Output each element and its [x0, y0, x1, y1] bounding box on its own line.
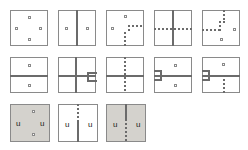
- dashed-vertical-segment: [124, 32, 126, 46]
- cell-row2-col2: [58, 57, 96, 93]
- cell-row1-col3: [106, 10, 144, 46]
- dashed-horizontal-segment: [128, 25, 144, 27]
- cell-row1-col1: [10, 10, 48, 46]
- node-marker: [233, 28, 236, 31]
- node-marker: [32, 133, 35, 136]
- bracket-tab-right: [87, 72, 97, 82]
- solid-vertical-segment: [77, 120, 79, 142]
- node-marker: [65, 27, 68, 30]
- u-label-left: u: [65, 121, 69, 129]
- cell-row2-col3: [106, 57, 144, 93]
- u-label-left: u: [16, 120, 20, 128]
- dashed-vertical-segment: [125, 123, 127, 142]
- u-label-right: u: [88, 121, 92, 129]
- dashed-horizontal-segment: [219, 21, 225, 23]
- node-marker: [174, 84, 177, 87]
- node-marker: [86, 27, 89, 30]
- cell-row2-col4: [154, 57, 192, 93]
- node-marker: [220, 38, 223, 41]
- node-marker: [124, 15, 127, 18]
- node-marker: [39, 27, 42, 30]
- dashed-horizontal-segment: [202, 29, 220, 31]
- bracket-tab-left: [202, 70, 210, 81]
- cell-row2-col1: [10, 57, 48, 93]
- solid-vertical-line: [76, 10, 78, 46]
- solid-vertical-segment: [125, 104, 127, 121]
- dashed-vertical-segment: [77, 104, 79, 120]
- figure-panel-grid: u u u u u u: [0, 0, 248, 150]
- u-label-left: u: [113, 121, 117, 129]
- cell-row3-col2: u u: [58, 104, 98, 142]
- node-marker: [28, 16, 31, 19]
- cell-row1-col5: [202, 10, 240, 46]
- node-marker: [32, 110, 35, 113]
- u-label-right: u: [40, 120, 44, 128]
- node-marker: [222, 63, 225, 66]
- node-marker: [28, 84, 31, 87]
- cell-row3-col1: u u: [10, 104, 50, 142]
- node-marker: [111, 27, 114, 30]
- bracket-tab-left: [154, 70, 162, 81]
- solid-horizontal-line: [10, 75, 48, 77]
- cell-row1-col4: [154, 10, 192, 46]
- node-marker: [15, 27, 18, 30]
- node-marker: [174, 64, 177, 67]
- dashed-horizontal-line: [154, 28, 192, 30]
- node-marker: [28, 64, 31, 67]
- dashed-vertical-line: [124, 57, 126, 93]
- node-marker: [28, 38, 31, 41]
- cell-row1-col2: [58, 10, 96, 46]
- u-label-right: u: [136, 121, 140, 129]
- cell-row2-col5: [202, 57, 240, 93]
- dashed-vertical-segment: [223, 79, 225, 93]
- cell-row3-col3: u u: [106, 104, 146, 142]
